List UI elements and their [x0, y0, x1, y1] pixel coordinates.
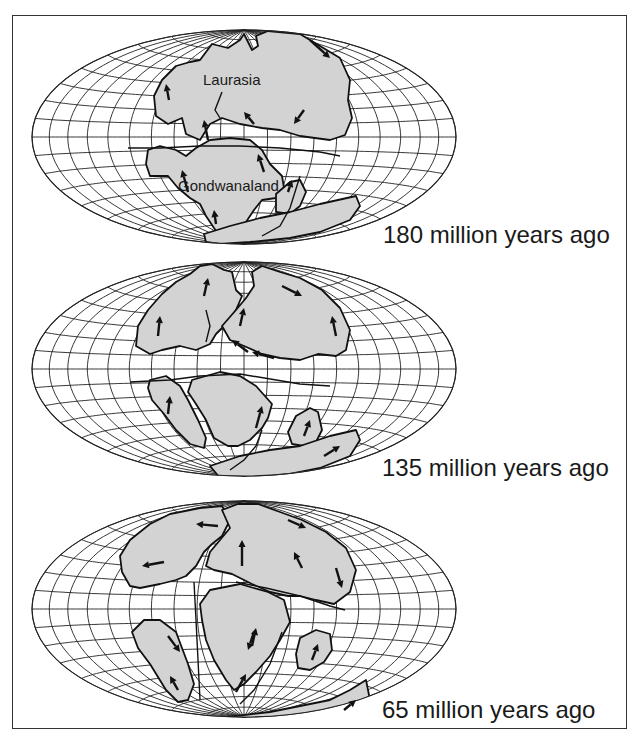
world-map-180-mya	[32, 30, 456, 244]
map-panel-65: 65 million years ago	[32, 501, 595, 730]
map-panel-180: 180 million years agoLaurasiaGondwanalan…	[32, 30, 610, 248]
continents	[120, 504, 370, 730]
plate-tectonics-figure: 180 million years agoLaurasiaGondwanalan…	[0, 0, 636, 743]
map-panel-135: 135 million years ago	[32, 262, 609, 481]
era-label-180: 180 million years ago	[383, 221, 610, 248]
era-label-65: 65 million years ago	[382, 696, 595, 723]
label-laurasia: Laurasia	[203, 71, 261, 88]
landmass	[132, 620, 194, 702]
continents	[130, 264, 360, 478]
world-map-135-mya	[32, 262, 456, 478]
landmass	[200, 680, 370, 730]
label-gondwanaland: Gondwanaland	[178, 177, 279, 194]
era-label-135: 135 million years ago	[382, 454, 609, 481]
landmass	[136, 264, 242, 354]
